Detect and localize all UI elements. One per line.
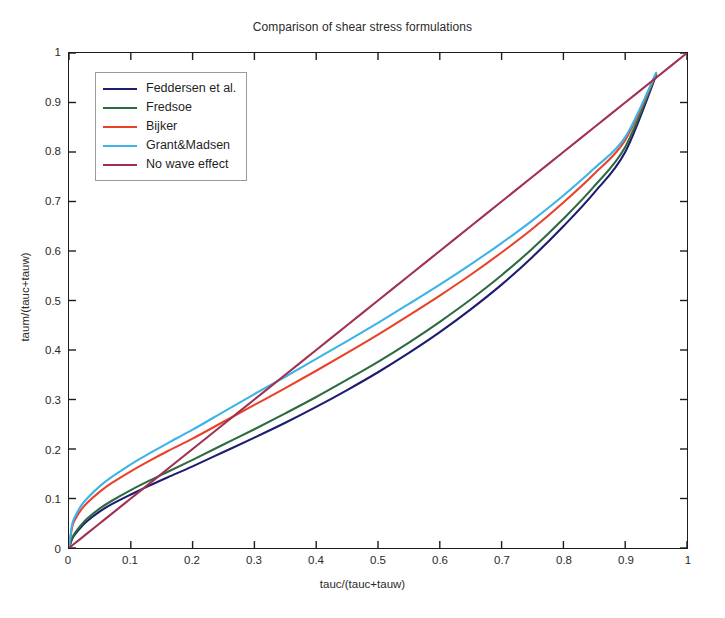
y-tick-label: 0.9 — [21, 96, 61, 108]
chart-title: Comparison of shear stress formulations — [0, 20, 725, 34]
legend-item[interactable]: Fredsoe — [103, 98, 236, 117]
legend-color-swatch — [103, 164, 137, 166]
x-tick-label: 0.1 — [122, 554, 138, 566]
y-axis-label: taum/(tauc+tauw) — [19, 217, 31, 377]
y-tick-label: 1 — [21, 46, 61, 58]
x-tick-label: 0 — [65, 554, 71, 566]
legend-item-label: Fredsoe — [146, 101, 192, 114]
x-tick-label: 0.7 — [494, 554, 510, 566]
y-tick-label: 0 — [21, 543, 61, 555]
y-tick-label: 0.7 — [21, 195, 61, 207]
legend-item[interactable]: Feddersen et al. — [103, 79, 236, 98]
y-tick-label: 0.8 — [21, 145, 61, 157]
y-tick-label: 0.1 — [21, 493, 61, 505]
x-tick-label: 0.3 — [246, 554, 262, 566]
series-line-tail — [656, 53, 687, 78]
legend-color-swatch — [103, 107, 137, 109]
legend-item-label: No wave effect — [146, 158, 228, 171]
x-tick-label: 1 — [685, 554, 691, 566]
legend-item[interactable]: No wave effect — [103, 155, 236, 174]
x-tick-label: 0.2 — [184, 554, 200, 566]
x-tick-label: 0.9 — [618, 554, 634, 566]
x-axis-label: tauc/(tauc+tauw) — [0, 578, 725, 590]
legend-item-label: Grant&Madsen — [146, 139, 230, 152]
legend-item-label: Feddersen et al. — [146, 82, 236, 95]
x-tick-label: 0.8 — [556, 554, 572, 566]
legend-color-swatch — [103, 88, 137, 90]
legend-color-swatch — [103, 126, 137, 128]
x-tick-label: 0.5 — [370, 554, 386, 566]
legend-box: Feddersen et al.FredsoeBijkerGrant&Madse… — [95, 72, 247, 181]
legend-item[interactable]: Bijker — [103, 117, 236, 136]
x-tick-label: 0.4 — [308, 554, 324, 566]
legend-color-swatch — [103, 145, 137, 147]
y-tick-label: 0.2 — [21, 444, 61, 456]
legend-item-label: Bijker — [146, 120, 177, 133]
y-tick-label: 0.3 — [21, 394, 61, 406]
figure-canvas: Comparison of shear stress formulations … — [0, 0, 725, 618]
x-tick-label: 0.6 — [432, 554, 448, 566]
legend-item[interactable]: Grant&Madsen — [103, 136, 236, 155]
